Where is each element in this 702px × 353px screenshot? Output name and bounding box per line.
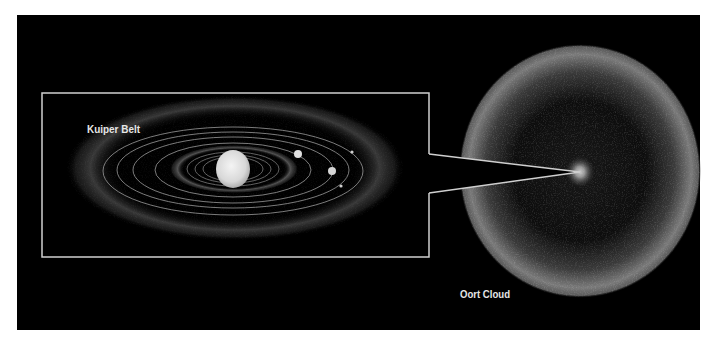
figure-root: Kuiper Belt Oort Cloud	[0, 0, 702, 353]
oort-cloud-label: Oort Cloud	[460, 288, 510, 300]
planet	[294, 150, 302, 158]
planet	[339, 184, 342, 187]
solar-system-diagram: Kuiper Belt Oort Cloud	[0, 0, 702, 353]
kuiper-belt-label: Kuiper Belt	[87, 123, 140, 135]
planet	[350, 150, 353, 153]
planet	[328, 167, 336, 175]
sun	[216, 150, 250, 188]
